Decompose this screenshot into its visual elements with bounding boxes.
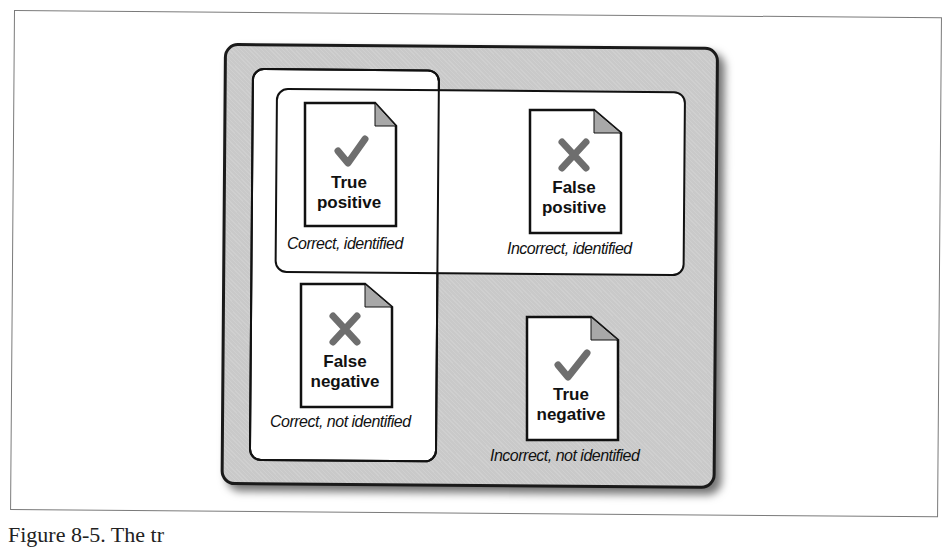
quadrant-title: Truenegative: [525, 385, 617, 425]
true-positive-caption: Correct, identified: [287, 235, 403, 253]
false-negative-document: Falsenegative: [299, 282, 395, 412]
false-negative-caption: Correct, not identified: [270, 413, 411, 431]
true-negative-caption: Incorrect, not identified: [490, 447, 639, 465]
quadrant-title: Falsenegative: [299, 352, 391, 392]
quadrant-title: Truepositive: [303, 173, 395, 213]
quadrant-title: Falsepositive: [528, 178, 620, 218]
true-negative-document: Truenegative: [525, 315, 621, 445]
false-positive-caption: Incorrect, identified: [507, 240, 632, 258]
figure-caption: Figure 8-5. The tr: [8, 522, 164, 548]
true-positive-document: Truepositive: [303, 101, 399, 231]
false-positive-document: Falsepositive: [528, 108, 624, 238]
